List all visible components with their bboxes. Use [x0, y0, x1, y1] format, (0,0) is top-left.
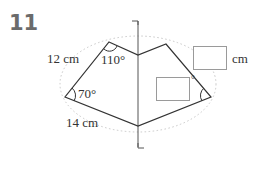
symmetric-figure: 12 cm 110° 70° 14 cm °	[0, 0, 268, 169]
axis-top-marker	[132, 21, 138, 25]
unit-cm: cm	[232, 52, 248, 65]
angle-arc-70	[72, 88, 76, 101]
answer-box-angle[interactable]	[156, 77, 190, 101]
answer-box-side-length[interactable]	[193, 46, 227, 70]
axis-bottom-marker	[138, 143, 144, 148]
angle-label-110: 110°	[101, 52, 125, 67]
angle-label-70: 70°	[78, 86, 96, 101]
degree-mark: °	[191, 74, 195, 85]
side-label-14cm: 14 cm	[66, 115, 98, 130]
angle-arc-110	[104, 46, 117, 51]
angle-arc-right	[200, 88, 204, 101]
side-label-12cm: 12 cm	[47, 51, 79, 66]
